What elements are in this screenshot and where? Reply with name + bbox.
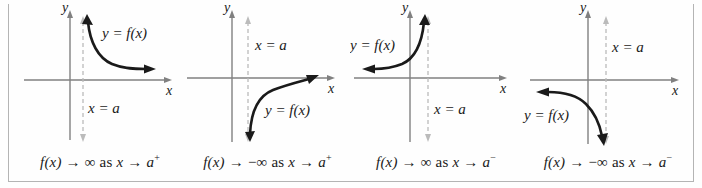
- caption-as-word: as: [267, 154, 288, 170]
- y-axis-label: y: [222, 0, 231, 15]
- panel-3-caption: f(x) → ∞ as x → a−: [350, 152, 522, 171]
- asymptote-label: x = a: [433, 101, 466, 117]
- caption-arrow-2: →: [123, 154, 146, 170]
- caption-as-word: as: [608, 154, 629, 170]
- caption-arrow-1: →: [398, 154, 421, 170]
- y-axis-label: y: [400, 0, 409, 15]
- caption-limit-value: −∞: [248, 154, 268, 170]
- caption-variable: x: [629, 154, 636, 170]
- asymptote-label: x = a: [611, 39, 644, 55]
- frame-left-border: [8, 4, 9, 182]
- panel-1-graph: y x y = f(x) x = a: [20, 0, 180, 150]
- caption-function: f(x): [544, 154, 566, 170]
- caption-side-superscript: −: [490, 152, 496, 163]
- asymptote-arrowhead-bottom: [80, 134, 86, 142]
- panel-3: y x y = f(x) x = a f(x) → ∞ as x → a−: [350, 0, 522, 188]
- caption-limit-value: ∞: [421, 154, 432, 170]
- curve-label: y = f(x): [350, 37, 395, 54]
- caption-arrow-2: →: [295, 154, 318, 170]
- caption-target: a: [318, 154, 326, 170]
- curve-label: y = f(x): [100, 25, 147, 42]
- caption-as-word: as: [96, 154, 117, 170]
- asymptote-arrowhead-bottom: [425, 134, 431, 142]
- caption-arrow-2: →: [459, 154, 482, 170]
- panel-2-caption: f(x) → −∞ as x → a+: [185, 152, 350, 171]
- panel-1-caption: f(x) → ∞ as x → a+: [20, 152, 180, 171]
- panel-4: y x y = f(x) x = a f(x) → −∞ as x → a−: [522, 0, 694, 188]
- caption-as-word: as: [432, 154, 453, 170]
- panel-1: y x y = f(x) x = a f(x) → ∞ as x → a+: [20, 0, 180, 188]
- limits-asymptote-figure: y x y = f(x) x = a f(x) → ∞ as x → a+ y …: [0, 0, 702, 188]
- asymptote-label: x = a: [87, 100, 120, 116]
- caption-side-superscript: −: [666, 152, 672, 163]
- caption-limit-value: −∞: [588, 154, 608, 170]
- curve-arrowhead-right: [306, 75, 319, 84]
- caption-arrow-1: →: [565, 154, 588, 170]
- curve-arrowhead-right: [144, 65, 156, 74]
- caption-function: f(x): [203, 154, 225, 170]
- x-axis-label: x: [671, 83, 679, 98]
- panel-2-graph: y x y = f(x) x = a: [185, 0, 350, 150]
- caption-arrow-1: →: [62, 154, 85, 170]
- panel-3-graph: y x y = f(x) x = a: [350, 0, 522, 150]
- caption-arrow-2: →: [636, 154, 659, 170]
- caption-side-superscript: +: [154, 152, 160, 163]
- caption-target: a: [482, 154, 490, 170]
- caption-limit-value: ∞: [85, 154, 96, 170]
- asymptote-label: x = a: [254, 37, 287, 53]
- asymptote-arrowhead-top: [603, 16, 609, 24]
- caption-target: a: [146, 154, 154, 170]
- caption-function: f(x): [40, 154, 62, 170]
- asymptote-arrowhead-top: [245, 16, 251, 24]
- curve-arrowhead-left: [536, 88, 549, 97]
- y-axis-label: y: [578, 0, 587, 15]
- panel-2: y x y = f(x) x = a f(x) → −∞ as x → a+: [185, 0, 350, 188]
- x-axis-label: x: [165, 83, 173, 98]
- curve-label: y = f(x): [522, 107, 569, 124]
- panel-4-graph: y x y = f(x) x = a: [522, 0, 694, 150]
- curve-label: y = f(x): [263, 102, 310, 119]
- caption-arrow-1: →: [225, 154, 248, 170]
- y-axis-label: y: [60, 0, 69, 15]
- caption-function: f(x): [376, 154, 398, 170]
- caption-side-superscript: +: [326, 152, 332, 163]
- panel-4-caption: f(x) → −∞ as x → a−: [522, 152, 694, 171]
- x-axis-label: x: [327, 81, 335, 96]
- curve-arrowhead-left: [362, 65, 375, 74]
- x-axis-label: x: [499, 81, 507, 96]
